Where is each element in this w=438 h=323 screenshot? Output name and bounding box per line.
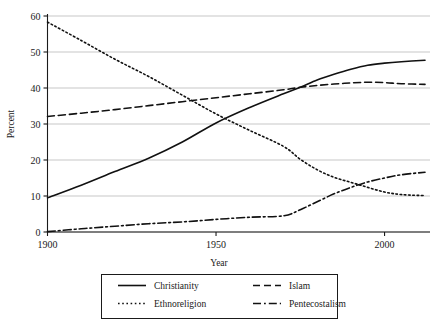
y-tick-label: 40 — [31, 83, 41, 94]
y-tick-label: 30 — [31, 119, 41, 130]
x-tick-label: 2000 — [375, 239, 395, 250]
chart-legend: ChristianityIslamEthnoreligionPentecosta… — [102, 275, 347, 319]
y-axis-title: Percent — [6, 109, 16, 138]
line-chart: 0102030405060 190019502000 Year Percent … — [0, 0, 438, 323]
legend-label-ethnoreligion: Ethnoreligion — [154, 299, 206, 309]
x-tick-label: 1900 — [38, 239, 58, 250]
y-tick-label: 0 — [36, 227, 41, 238]
y-tick-label: 60 — [31, 11, 41, 22]
x-tick-label: 1950 — [206, 239, 226, 250]
legend-label-pentecostalism: Pentecostalism — [289, 299, 347, 309]
y-tick-label: 10 — [31, 191, 41, 202]
legend-label-islam: Islam — [289, 281, 311, 291]
y-tick-label: 20 — [31, 155, 41, 166]
y-tick-label: 50 — [31, 47, 41, 58]
chart-figure: 0102030405060 190019502000 Year Percent … — [0, 0, 438, 323]
legend-label-christianity: Christianity — [154, 281, 199, 291]
x-axis-title: Year — [210, 258, 228, 268]
